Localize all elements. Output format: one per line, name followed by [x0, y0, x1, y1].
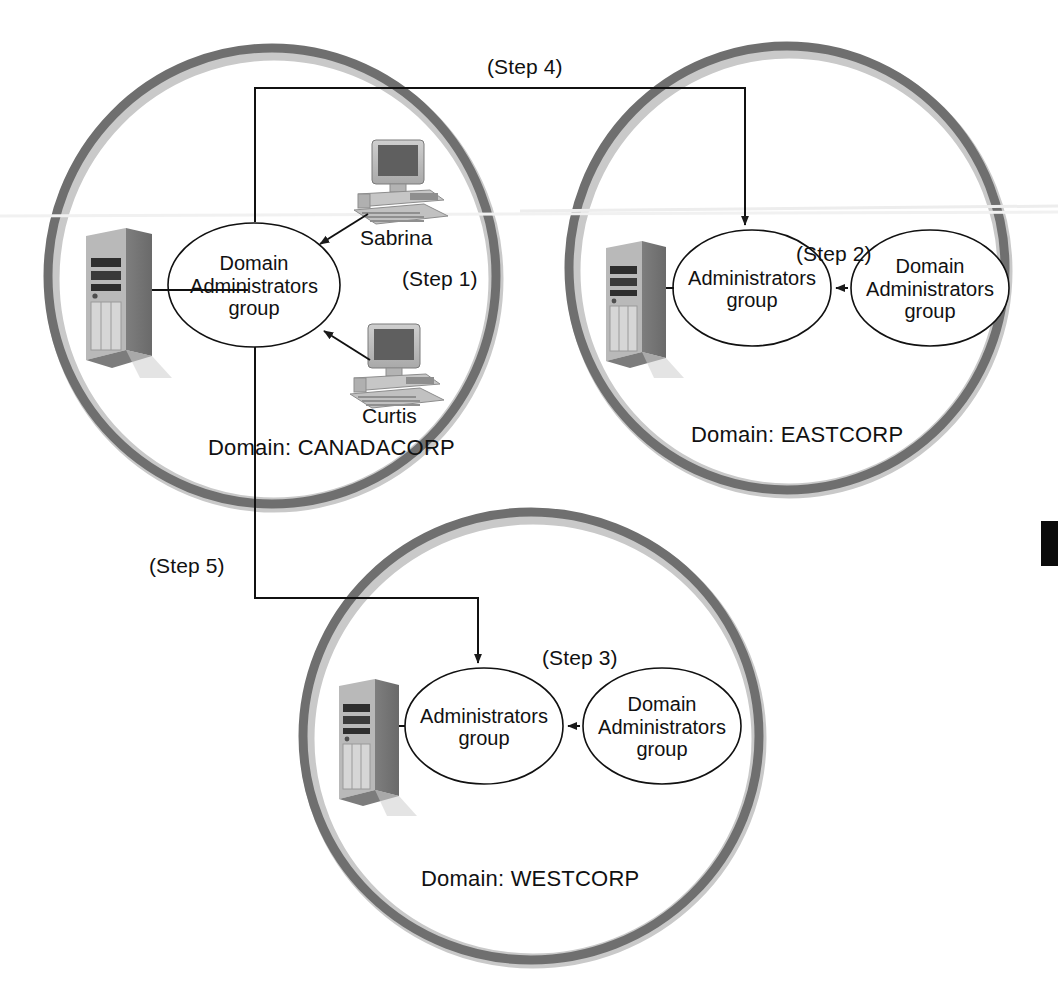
- workstation-icon-sabrina: [354, 140, 448, 224]
- domain-label-eastcorp: Domain: EASTCORP: [691, 422, 903, 448]
- page-edge-tab: [1041, 521, 1058, 566]
- step-label-step2: (Step 2): [796, 242, 872, 266]
- diagram-canvas: Domain Administrators group Administrato…: [0, 0, 1058, 986]
- step-label-step5: (Step 5): [149, 554, 225, 578]
- user-label-curtis: Curtis: [362, 404, 417, 428]
- connector-step4: [255, 88, 745, 225]
- group-ellipse-west-domain-admins[interactable]: [583, 668, 741, 784]
- domain-label-westcorp: Domain: WESTCORP: [421, 866, 639, 892]
- group-ellipse-west-administrators[interactable]: [405, 668, 563, 784]
- group-ellipse-east-domain-admins[interactable]: [851, 230, 1009, 346]
- domain-label-canadacorp: Domain: CANADACORP: [208, 435, 455, 461]
- server-tower-icon-eastcorp: [606, 241, 684, 378]
- group-ellipse-canada-domain-admins[interactable]: [168, 223, 340, 347]
- workstation-icon-curtis: [350, 324, 444, 408]
- step-label-step1: (Step 1): [402, 267, 478, 291]
- user-label-sabrina: Sabrina: [360, 226, 432, 250]
- server-tower-icon-westcorp: [339, 679, 417, 816]
- step-label-step4: (Step 4): [487, 55, 563, 79]
- diagram-vector-layer: [0, 0, 1058, 986]
- step-label-step3: (Step 3): [542, 646, 618, 670]
- arrow-curtis-to-domain-admins: [324, 331, 370, 360]
